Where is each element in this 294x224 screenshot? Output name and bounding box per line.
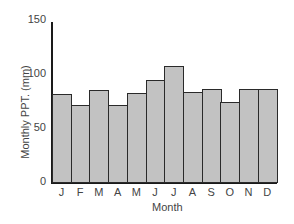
bar: [164, 66, 184, 183]
x-tick-label: O: [220, 186, 239, 198]
bar: [89, 90, 109, 183]
bar: [183, 92, 203, 183]
y-tick-label: 150: [16, 13, 46, 25]
bar: [108, 105, 128, 183]
x-tick-label: N: [239, 186, 258, 198]
x-tick-label: A: [108, 186, 127, 198]
bar: [52, 94, 72, 183]
bar: [220, 102, 240, 183]
bar: [127, 93, 147, 183]
bar: [202, 89, 222, 183]
bar: [239, 89, 259, 183]
x-tick-label: M: [89, 186, 108, 198]
y-axis-title: Monthly PPT. (mm): [19, 65, 31, 159]
y-tick-label: 0: [16, 175, 46, 187]
bar: [258, 89, 278, 183]
x-tick-label: J: [52, 186, 71, 198]
x-tick-label: A: [183, 186, 202, 198]
x-tick-label: S: [202, 186, 221, 198]
x-tick-label: F: [71, 186, 90, 198]
bar: [146, 80, 166, 183]
x-tick-label: D: [258, 186, 277, 198]
x-axis-title: Month: [152, 201, 183, 213]
x-tick-label: M: [127, 186, 146, 198]
bar: [71, 105, 91, 183]
x-tick-label: J: [146, 186, 165, 198]
bar-chart: 050100150 JFMAMJJASOND Month Monthly PPT…: [0, 0, 294, 224]
x-tick-label: J: [164, 186, 183, 198]
